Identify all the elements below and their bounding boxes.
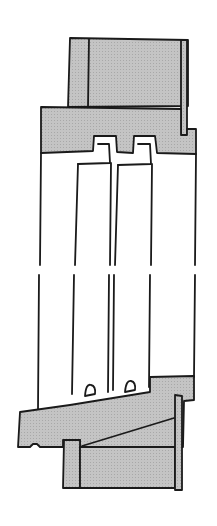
window-section-drawing xyxy=(0,0,217,526)
outer-sash xyxy=(72,144,111,394)
window-head xyxy=(41,107,196,154)
inner-sash xyxy=(113,144,152,390)
window-sill xyxy=(18,376,194,447)
